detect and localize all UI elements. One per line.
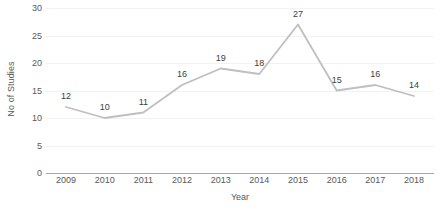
y-tick-label: 0 — [37, 169, 42, 178]
x-tick-label: 2010 — [95, 176, 115, 185]
data-label: 10 — [100, 103, 110, 112]
y-axis-title-text: No of Studies — [6, 61, 16, 116]
y-tick-label: 5 — [37, 141, 42, 150]
data-label: 27 — [293, 10, 303, 19]
y-tick-label: 25 — [32, 31, 42, 40]
x-tick-label: 2017 — [365, 176, 385, 185]
x-axis-title: Year — [46, 192, 434, 202]
data-label: 14 — [409, 81, 419, 90]
x-axis-line — [46, 173, 434, 174]
y-tick-label: 15 — [32, 86, 42, 95]
y-tick-label: 10 — [32, 114, 42, 123]
x-tick-label: 2018 — [404, 176, 424, 185]
x-tick-label: 2013 — [211, 176, 231, 185]
x-tick-label: 2014 — [249, 176, 269, 185]
data-point-labels: 12101116191827151614 — [46, 8, 434, 173]
x-tick-label: 2011 — [134, 176, 153, 185]
x-tick-label: 2016 — [327, 176, 347, 185]
plot-area: 12101116191827151614 — [46, 8, 434, 173]
y-tick-label: 30 — [32, 4, 42, 13]
data-label: 12 — [61, 92, 71, 101]
data-label: 19 — [216, 54, 226, 63]
x-tick-label: 2009 — [56, 176, 76, 185]
y-axis-tick-labels: 051015202530 — [20, 0, 46, 178]
x-tick-label: 2015 — [288, 176, 308, 185]
data-label: 16 — [370, 70, 380, 79]
y-tick-label: 20 — [32, 59, 42, 68]
data-label: 16 — [177, 70, 187, 79]
x-axis-tick-labels: 2009201020112012201320142015201620172018 — [46, 176, 434, 190]
line-chart-figure: No of Studies 051015202530 1210111619182… — [0, 0, 441, 210]
data-label: 18 — [254, 59, 264, 68]
y-axis-title: No of Studies — [0, 0, 22, 178]
data-label: 15 — [332, 76, 342, 85]
data-label: 11 — [139, 98, 148, 107]
x-tick-label: 2012 — [172, 176, 192, 185]
